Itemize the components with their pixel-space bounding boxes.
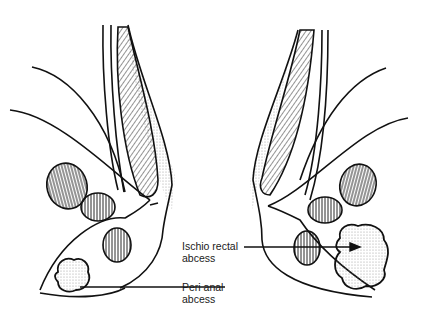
label-line: Peri anal	[182, 281, 223, 293]
ischio-rectal-abscess-label: Ischio rectal abcess	[182, 240, 238, 264]
ischio-rectal-abscess-shape	[335, 225, 388, 289]
label-line: Ischio rectal	[182, 240, 238, 252]
label-line: abcess	[182, 293, 223, 305]
peri-anal-abscess-label: Peri anal abcess	[182, 281, 223, 305]
left-anatomy	[10, 25, 175, 297]
anorectal-abscess-diagram	[0, 0, 435, 326]
label-line: abcess	[182, 252, 238, 264]
